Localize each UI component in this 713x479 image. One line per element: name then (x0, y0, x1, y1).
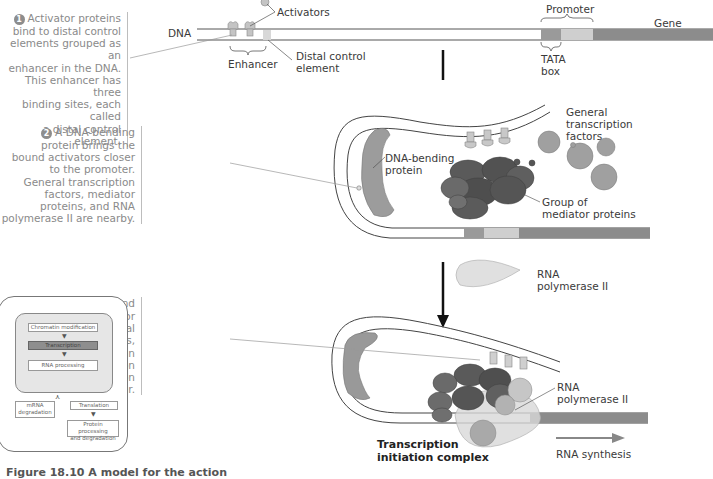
arrow-icon: ▼ (62, 332, 67, 339)
label-rna-polymerase-bound: RNA polymerase II (557, 381, 628, 405)
box-chromatin-modification: Chromatin modification (28, 323, 98, 332)
figure-caption: Figure 18.10 A model for the action (6, 466, 227, 479)
arrow-icon: ▼ (91, 410, 96, 417)
box-translation: Translation (70, 401, 118, 410)
label-transcription-initiation-complex: Transcription initiation complex (377, 438, 489, 464)
box-transcription: Transcription (28, 341, 98, 350)
arrow-icon: ▼ (62, 350, 67, 357)
box-protein-processing: Protein processing and degradation (67, 420, 119, 437)
branch-arrow-icon: ⋏ (55, 393, 60, 401)
label-rna-synthesis: RNA synthesis (556, 448, 631, 460)
box-rna-processing: RNA processing (28, 360, 98, 371)
gene-expression-inset: Chromatin modification ▼ Transcription ▼… (0, 296, 128, 452)
box-mrna-degradation: mRNA degradation (15, 401, 55, 418)
